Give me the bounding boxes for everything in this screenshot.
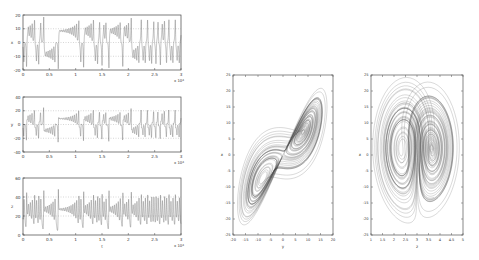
x-tick-label: 10	[306, 238, 311, 242]
phase-portrait-2: 11.522.533.544.552520151050-5-10-15-20-2…	[359, 73, 464, 249]
x-tick-label: 2.5	[151, 154, 158, 159]
attractor-curve	[237, 88, 327, 225]
y-tick-label: -5	[227, 169, 231, 173]
attractor-curve	[373, 77, 460, 223]
x-tick-label: 1	[74, 154, 77, 159]
x-exponent-sup: 4	[182, 78, 184, 82]
y-axis-label: z	[11, 204, 14, 209]
x-tick-label: 2	[127, 154, 130, 159]
x-tick-label: 2.5	[151, 72, 158, 77]
y-axis-label: x	[221, 152, 224, 157]
time-series-z: 604020000.511.522.53x 104zt	[11, 176, 184, 250]
y-tick-label: -40	[14, 150, 21, 155]
y-axis-label: y	[11, 122, 14, 127]
x-tick-label: 4.5	[449, 238, 455, 242]
y-tick-label: 20	[15, 108, 21, 113]
x-axis-label: y	[282, 244, 285, 249]
y-tick-label: -10	[225, 185, 232, 189]
y-axis-label: x	[11, 40, 14, 45]
x-tick-label: 3	[180, 237, 183, 242]
y-tick-label: 40	[15, 195, 21, 200]
x-tick-label: 0	[22, 72, 25, 77]
x-tick-label: 1	[370, 238, 372, 242]
x-tick-label: 5	[462, 238, 464, 242]
x-tick-label: 3.5	[426, 238, 432, 242]
y-tick-label: 10	[226, 121, 231, 125]
x-exponent-label: x 104	[174, 160, 184, 166]
phase-portrait-1: -20-15-10-5051015202520151050-5-10-15-20…	[221, 73, 336, 249]
time-series-x: 20100-10-2000.511.522.53x 104x	[11, 13, 185, 84]
x-tick-label: -10	[255, 238, 262, 242]
x-tick-label: 2	[127, 72, 130, 77]
y-tick-label: 15	[364, 105, 369, 109]
y-tick-label: -20	[14, 136, 21, 141]
y-tick-label: 5	[228, 137, 230, 141]
x-exponent-sup: 4	[182, 243, 184, 247]
x-tick-label: 15	[318, 238, 323, 242]
x-tick-label: 1	[74, 72, 77, 77]
x-tick-label: -15	[243, 238, 249, 242]
y-tick-label: 20	[15, 214, 21, 219]
y-tick-label: 0	[18, 122, 21, 127]
x-tick-label: 0.5	[46, 154, 53, 159]
x-tick-label: 5	[294, 238, 296, 242]
y-tick-label: 5	[366, 137, 368, 141]
x-tick-label: 3	[180, 154, 183, 159]
y-tick-label: 10	[15, 26, 21, 31]
x-tick-label: 2.5	[403, 238, 409, 242]
x-tick-label: 1.5	[99, 237, 106, 242]
y-tick-label: 0	[18, 40, 21, 45]
x-tick-label: 0	[22, 237, 25, 242]
y-tick-label: 20	[364, 89, 369, 93]
y-tick-label: -5	[365, 169, 369, 173]
figure-canvas: 20100-10-2000.511.522.53x 104x40200-20-4…	[0, 0, 479, 260]
x-tick-label: 4	[439, 238, 442, 242]
y-tick-label: -15	[225, 201, 231, 205]
plot-frame	[371, 75, 463, 235]
y-tick-label: -20	[14, 68, 21, 73]
y-tick-label: -20	[363, 217, 370, 221]
y-tick-label: -10	[363, 185, 370, 189]
y-tick-label: 25	[364, 73, 369, 77]
y-tick-label: 0	[228, 153, 231, 157]
series-line	[23, 189, 181, 230]
x-tick-label: 20	[331, 238, 336, 242]
y-tick-label: 10	[364, 121, 369, 125]
x-tick-label: 2	[393, 238, 395, 242]
x-exponent-label: x 104	[174, 78, 184, 84]
y-tick-label: -25	[363, 233, 369, 237]
y-tick-label: 20	[15, 13, 21, 18]
y-tick-label: -10	[14, 54, 21, 59]
x-axis-label: t	[101, 244, 103, 249]
y-axis-label: x	[359, 152, 362, 157]
x-axis-label: z	[416, 244, 418, 249]
x-tick-label: 3	[180, 72, 183, 77]
y-tick-label: -25	[225, 233, 231, 237]
y-tick-label: 25	[226, 73, 231, 77]
x-tick-label: 2.5	[151, 237, 158, 242]
y-tick-label: 15	[226, 105, 231, 109]
x-tick-label: 2	[127, 237, 130, 242]
x-tick-label: -20	[230, 238, 237, 242]
series-line	[23, 17, 181, 69]
y-tick-label: 0	[18, 233, 21, 238]
time-series-y: 40200-20-4000.511.522.53x 104y	[11, 95, 185, 166]
x-tick-label: 0.5	[46, 237, 53, 242]
y-tick-label: 40	[15, 95, 21, 100]
x-tick-label: 1.5	[99, 154, 106, 159]
x-tick-label: 0.5	[46, 72, 53, 77]
y-tick-label: -15	[363, 201, 369, 205]
x-tick-label: 3	[416, 238, 418, 242]
x-exponent-sup: 4	[182, 160, 184, 164]
x-tick-label: 0	[22, 154, 25, 159]
x-tick-label: -5	[269, 238, 273, 242]
plot-frame	[23, 97, 181, 152]
figure: 20100-10-2000.511.522.53x 104x40200-20-4…	[0, 0, 479, 260]
x-tick-label: 1.5	[99, 72, 106, 77]
x-tick-label: 1	[74, 237, 77, 242]
y-tick-label: 20	[226, 89, 231, 93]
y-tick-label: 0	[366, 153, 369, 157]
x-tick-label: 1.5	[380, 238, 386, 242]
x-tick-label: 0	[282, 238, 285, 242]
y-tick-label: 60	[15, 176, 21, 181]
